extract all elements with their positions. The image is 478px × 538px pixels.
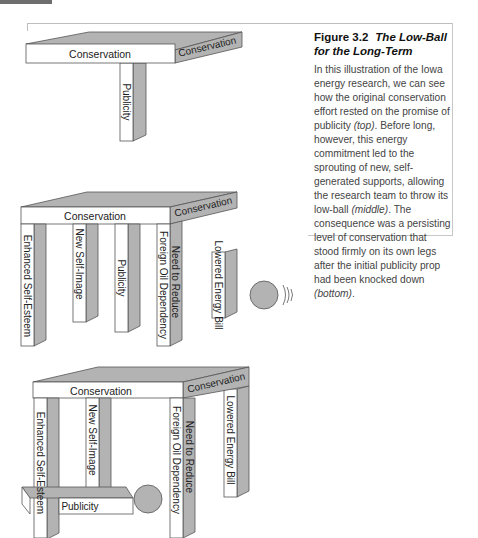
low-ball-diagram: Conservation Conservation Publicity Cons… (0, 0, 478, 538)
bottom-leg-need-to-reduce: Need to Reduce (184, 421, 195, 494)
bottom-leg-foreign-oil-dependency: Foreign Oil Dependency (171, 406, 182, 514)
bottom-fallen-publicity-label: Publicity (61, 501, 98, 512)
middle-leg-publicity: Publicity (116, 259, 127, 296)
bottom-wrecking-ball (134, 485, 162, 513)
bottom-leg-new-self-image: New Self-Image (87, 404, 98, 476)
top-leg-publicity: Publicity (121, 83, 132, 120)
middle-leg-new-self-image: New Self-Image (74, 228, 85, 300)
middle-leg-foreign-oil-dependency: Foreign Oil Dependency (158, 231, 169, 339)
bottom-leg-enhanced-self-esteem: Enhanced Self-Esteem (35, 412, 46, 514)
middle-tabletop-label: Conservation (64, 210, 126, 222)
middle-leg-need-to-reduce: Need to Reduce (170, 246, 181, 319)
middle-table (21, 192, 237, 346)
bottom-tabletop-label: Conservation (70, 385, 132, 397)
top-tabletop-label: Conservation (69, 48, 131, 60)
middle-leg-enhanced-self-esteem: Enhanced Self-Esteem (22, 235, 33, 337)
middle-leg-lowered-energy-bill: Lowered Energy Bill (213, 241, 224, 330)
bottom-leg-lowered-energy-bill: Lowered Energy Bill (225, 396, 236, 485)
middle-wrecking-ball (250, 281, 293, 309)
